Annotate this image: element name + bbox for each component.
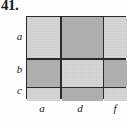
grid-cell-c-f bbox=[104, 88, 127, 101]
grid-cell-b-f bbox=[104, 60, 127, 87]
grid-cell-c-d bbox=[62, 88, 103, 101]
figure-container: 41. a b c a d f bbox=[0, 0, 127, 122]
column-label-d: d bbox=[69, 103, 91, 114]
row-label-a: a bbox=[14, 31, 25, 42]
grid-cell-b-a bbox=[27, 60, 60, 87]
row-label-b: b bbox=[14, 64, 25, 75]
grid-cell-a-f bbox=[104, 17, 127, 58]
grid-cell-a-d bbox=[62, 17, 103, 58]
row-label-c: c bbox=[14, 85, 25, 96]
column-label-a: a bbox=[31, 103, 53, 114]
grid-cell-c-a bbox=[27, 88, 60, 101]
area-model-grid bbox=[26, 16, 126, 99]
exercise-number-label: 41. bbox=[1, 0, 18, 12]
grid-cell-a-a bbox=[27, 17, 60, 58]
grid-cell-b-d bbox=[62, 60, 103, 87]
column-label-f: f bbox=[104, 103, 126, 114]
